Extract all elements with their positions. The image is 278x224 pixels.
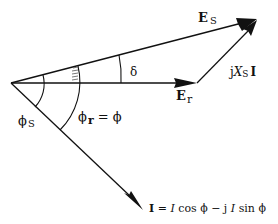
jxsi-label: jXSI (228, 65, 256, 79)
delta-label: δ (130, 65, 137, 79)
hatch-marks (72, 67, 78, 80)
er-arrowhead-icon (174, 78, 197, 88)
delta-arc (119, 55, 121, 83)
phi-r-arc (60, 66, 80, 130)
phasor-diagram: ES Er δ jXSI ϕS ϕr = ϕ I = I cos ϕ − j I… (0, 0, 278, 224)
phi-r-label: ϕr = ϕ (78, 109, 122, 127)
es-label: ES (198, 10, 217, 26)
er-phasor (11, 78, 197, 88)
phi-s-label: ϕS (18, 113, 35, 129)
er-label: Er (176, 88, 193, 106)
phi-s-arc (35, 75, 44, 107)
current-equation-label: I = I cos ϕ − j I sin ϕ (149, 202, 266, 215)
